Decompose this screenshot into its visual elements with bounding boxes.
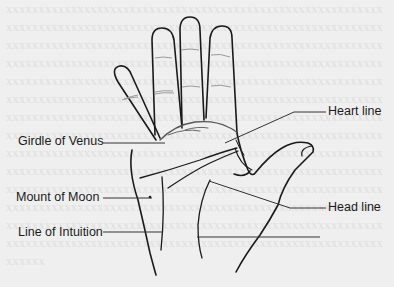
heart-line-path: [140, 148, 237, 178]
label-mount-of-moon: Mount of Moon: [16, 190, 99, 204]
label-heart-line: Heart line: [328, 104, 382, 118]
label-girdle-of-venus: Girdle of Venus: [18, 134, 103, 148]
head-line-path: [168, 151, 238, 188]
thumb-crease: [234, 171, 250, 175]
line-of-intuition-path: [161, 177, 163, 250]
life-line-path: [198, 180, 210, 258]
middle-finger: [180, 17, 204, 125]
mount-of-moon-dot: [149, 196, 152, 199]
label-line-of-intuition: Line of Intuition: [18, 225, 103, 239]
hand-outline: [114, 17, 313, 275]
palm-left-edge: [131, 150, 156, 275]
label-head-line: Head line: [328, 200, 381, 214]
ring-finger: [152, 28, 182, 135]
index-finger: [206, 26, 237, 133]
